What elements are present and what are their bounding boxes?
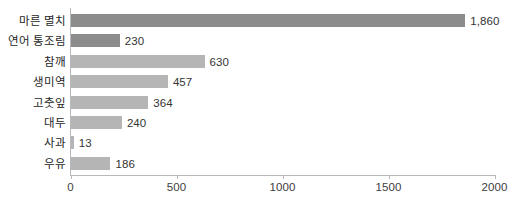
bar-value-label: 230 [125, 34, 145, 48]
category-label: 우유 [0, 157, 66, 172]
x-tick-mark [71, 175, 72, 179]
bar-value-label: 186 [115, 157, 135, 171]
category-label: 연어 통조림 [0, 34, 66, 49]
bar [71, 14, 465, 27]
category-label: 대두 [0, 116, 66, 131]
x-tick-label: 500 [167, 181, 187, 193]
x-tick-mark [495, 175, 496, 179]
category-label: 참깨 [0, 55, 66, 70]
bar [71, 116, 122, 129]
bar-row: 생미역457 [0, 73, 518, 93]
bar [71, 75, 168, 88]
bar-row: 우유186 [0, 155, 518, 175]
bar-value-label: 630 [210, 55, 230, 69]
bar [71, 96, 148, 109]
bar-row: 마른 멸치1,860 [0, 12, 518, 32]
category-label: 사과 [0, 136, 66, 151]
x-tick-label: 1000 [270, 181, 296, 193]
category-label: 마른 멸치 [0, 14, 66, 29]
x-tick-label: 0 [67, 181, 74, 193]
bar-value-label: 364 [153, 96, 173, 110]
bar-value-label: 13 [79, 136, 92, 150]
category-label: 고춧잎 [0, 96, 66, 111]
bar-row: 연어 통조림230 [0, 32, 518, 52]
bar-value-label: 240 [127, 116, 147, 130]
bar-chart: 0500100015002000 마른 멸치1,860연어 통조림230참깨63… [0, 0, 518, 218]
bar-value-label: 1,860 [470, 14, 499, 28]
bar-value-label: 457 [173, 75, 193, 89]
x-tick-mark [177, 175, 178, 179]
x-tick-mark [283, 175, 284, 179]
bar-row: 사과13 [0, 134, 518, 154]
bar [71, 34, 120, 47]
bar-row: 참깨630 [0, 53, 518, 73]
x-tick-label: 1500 [376, 181, 402, 193]
x-tick-mark [389, 175, 390, 179]
category-label: 생미역 [0, 75, 66, 90]
bar-row: 대두240 [0, 114, 518, 134]
plot-area: 0500100015002000 마른 멸치1,860연어 통조림230참깨63… [0, 0, 518, 218]
bar [71, 157, 110, 170]
bar [71, 136, 74, 149]
bar-row: 고춧잎364 [0, 94, 518, 114]
bar [71, 55, 205, 68]
x-tick-label: 2000 [482, 181, 508, 193]
